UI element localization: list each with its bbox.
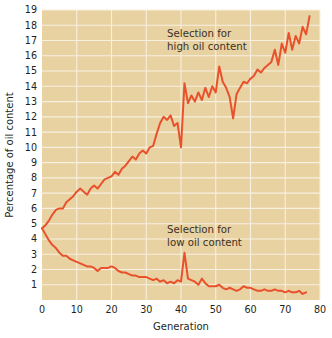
- x-tick-label-50: 50: [210, 304, 222, 315]
- y-tick-label-7: 7: [31, 188, 37, 199]
- y-tick-label-17: 17: [25, 35, 37, 46]
- y-tick-label-2: 2: [31, 264, 37, 275]
- x-tick-label-30: 30: [140, 304, 152, 315]
- x-axis-tick-labels: 01020304050607080: [39, 304, 326, 315]
- low-oil-annotation-line-2: low oil content: [167, 237, 242, 248]
- x-tick-label-70: 70: [279, 304, 291, 315]
- x-tick-label-20: 20: [105, 304, 117, 315]
- y-tick-label-10: 10: [25, 142, 37, 153]
- y-tick-label-12: 12: [25, 111, 37, 122]
- x-tick-label-60: 60: [244, 304, 256, 315]
- y-tick-label-4: 4: [31, 233, 37, 244]
- oil-content-selection-figure: 12345678910111213141516171819 0102030405…: [0, 0, 332, 338]
- x-tick-label-40: 40: [175, 304, 187, 315]
- y-tick-label-8: 8: [31, 172, 37, 183]
- high-oil-annotation-line-2: high oil content: [167, 41, 247, 52]
- y-tick-label-1: 1: [31, 279, 37, 290]
- y-axis-title: Percentage of oil content: [4, 92, 15, 217]
- x-axis-title: Generation: [153, 321, 209, 332]
- y-tick-label-14: 14: [25, 81, 37, 92]
- chart-canvas: 12345678910111213141516171819 0102030405…: [0, 0, 332, 338]
- y-tick-label-5: 5: [31, 218, 37, 229]
- x-tick-label-0: 0: [39, 304, 45, 315]
- y-tick-label-19: 19: [25, 4, 37, 15]
- y-tick-label-13: 13: [25, 96, 37, 107]
- y-tick-label-3: 3: [31, 249, 37, 260]
- y-tick-label-18: 18: [25, 20, 37, 31]
- y-tick-label-16: 16: [25, 50, 37, 61]
- y-tick-label-6: 6: [31, 203, 37, 214]
- low-oil-annotation-line-1: Selection for: [167, 224, 232, 235]
- x-tick-label-10: 10: [71, 304, 83, 315]
- y-tick-label-15: 15: [25, 65, 37, 76]
- high-oil-annotation-line-1: Selection for: [167, 28, 232, 39]
- x-tick-label-80: 80: [314, 304, 326, 315]
- y-tick-label-11: 11: [25, 127, 37, 138]
- y-tick-label-9: 9: [31, 157, 37, 168]
